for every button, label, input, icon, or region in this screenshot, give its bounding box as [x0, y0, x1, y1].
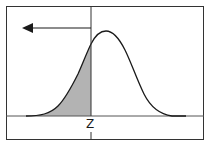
z-value-label: Z	[86, 118, 94, 130]
left-arrow-icon	[22, 23, 33, 33]
bell-curve	[26, 31, 186, 116]
frame-border	[7, 7, 204, 140]
normal-distribution-diagram	[0, 0, 210, 143]
